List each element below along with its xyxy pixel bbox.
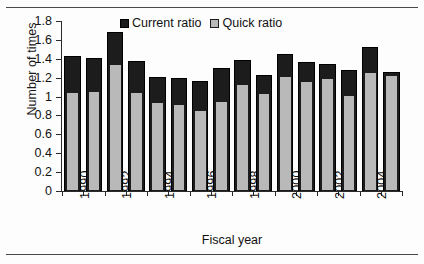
- x-axis-tick: [147, 191, 148, 196]
- bar-group: [190, 21, 211, 191]
- y-axis-tick-label: 1.6: [35, 33, 52, 48]
- bar-quick-ratio: [194, 110, 207, 191]
- x-axis-tick: [190, 191, 191, 196]
- bar-group: [126, 21, 147, 191]
- x-axis-tick: [275, 191, 276, 196]
- y-axis-tick-label: 1.8: [35, 14, 52, 29]
- x-axis-tick: [62, 191, 63, 196]
- y-axis-tick-label: 0: [45, 184, 52, 199]
- bar-group: [338, 21, 359, 191]
- x-axis-tick: [402, 191, 403, 196]
- y-axis-tick-label: 0.6: [35, 127, 52, 142]
- bar-group: [296, 21, 317, 191]
- x-axis-tick: [360, 191, 361, 196]
- bar-group: [147, 21, 168, 191]
- x-axis-tick: [317, 191, 318, 196]
- bar-group: [83, 21, 104, 191]
- bar-quick-ratio: [109, 64, 122, 191]
- bar-group: [62, 21, 83, 191]
- bar-group: [317, 21, 338, 191]
- x-axis-tick: [105, 191, 106, 196]
- bar-group: [211, 21, 232, 191]
- bar-group: [232, 21, 253, 191]
- bar-quick-ratio: [173, 104, 186, 191]
- bar-quick-ratio: [385, 75, 398, 191]
- y-axis-tick-label: 0.8: [35, 108, 52, 123]
- y-axis-tick-label: 1.2: [35, 71, 52, 86]
- bar-quick-ratio: [88, 91, 101, 191]
- y-axis-tick-label: 1.4: [35, 52, 52, 67]
- bar-quick-ratio: [215, 101, 228, 191]
- bar-group: [381, 21, 402, 191]
- bar-quick-ratio: [130, 92, 143, 191]
- top-divider-rule: [6, 7, 418, 8]
- x-axis-title: Fiscal year: [62, 233, 402, 247]
- bar-quick-ratio: [258, 93, 271, 191]
- bar-group: [105, 21, 126, 191]
- bar-group: [275, 21, 296, 191]
- bottom-divider-rule: [6, 254, 418, 255]
- bar-group: [360, 21, 381, 191]
- y-axis-tick-label: 0.4: [35, 146, 52, 161]
- y-axis-tick-label: 1: [45, 90, 52, 105]
- bar-quick-ratio: [364, 72, 377, 191]
- x-axis-tick: [232, 191, 233, 196]
- y-axis-tick-label: 0.2: [35, 165, 52, 180]
- bar-quick-ratio: [66, 92, 79, 191]
- bar-quick-ratio: [279, 76, 292, 191]
- plot-area: 00.20.40.60.811.21.41.61.8 1990199219941…: [62, 21, 402, 191]
- bar-quick-ratio: [343, 95, 356, 191]
- bar-quick-ratio: [300, 81, 313, 191]
- bar-quick-ratio: [321, 78, 334, 191]
- bar-quick-ratio: [236, 84, 249, 191]
- chart-figure: Number of times Current ratio Quick rati…: [0, 0, 424, 264]
- bar-quick-ratio: [151, 102, 164, 191]
- bar-group: [168, 21, 189, 191]
- bar-group: [253, 21, 274, 191]
